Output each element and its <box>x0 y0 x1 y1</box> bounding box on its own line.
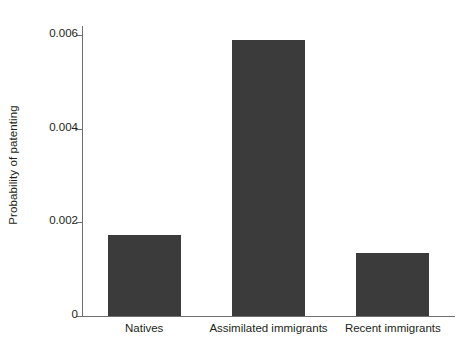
chart-figure: Probability of patenting 0 0.002 0.004 0… <box>0 0 472 350</box>
bar-recent-immigrants <box>356 253 429 316</box>
y-tick-label-1: 0.002 <box>49 214 78 226</box>
y-axis-title-text: Probability of patenting <box>7 105 19 224</box>
x-category-label-0: Natives <box>82 322 206 334</box>
x-axis-line <box>82 316 455 317</box>
bar-assimilated-immigrants <box>232 40 305 316</box>
y-tick-label-0: 0 <box>72 308 78 320</box>
x-category-label-1: Assimilated immigrants <box>206 322 330 334</box>
bar-natives <box>108 235 181 316</box>
y-axis-line <box>82 26 83 317</box>
plot-area: 0 0.002 0.004 0.006 Natives Assimilated … <box>82 26 455 317</box>
y-axis-title: Probability of patenting <box>0 0 26 330</box>
y-tick-label-2: 0.004 <box>49 121 78 133</box>
x-category-label-2: Recent immigrants <box>331 322 455 334</box>
y-tick-label-3: 0.006 <box>49 27 78 39</box>
